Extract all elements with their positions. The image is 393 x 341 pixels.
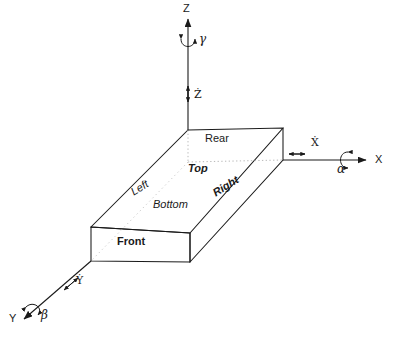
face-label-rear: Rear [205, 133, 229, 144]
face-label-front: Front [117, 236, 145, 247]
gamma-rotation-label: γ [199, 33, 206, 45]
x-dot-label: Ẋ [311, 137, 319, 148]
y-axis-line [24, 261, 91, 319]
beta-rotation-arc [26, 304, 40, 315]
block-right-face [190, 128, 283, 262]
z-axis-label: Z [183, 3, 190, 14]
alpha-rotation-label: α [337, 163, 345, 175]
face-label-bottom: Bottom [153, 199, 188, 210]
diagram-canvas: Z X Y γ α β Ż Ẋ Ẏ Rear Top Left Botto… [0, 0, 393, 341]
block-top-face [91, 128, 283, 233]
x-axis-label: X [375, 154, 382, 165]
y-axis-label: Y [9, 313, 16, 324]
beta-rotation-label: β [41, 309, 48, 321]
y-dot-label: Ẏ [76, 275, 83, 286]
z-dot-label: Ż [194, 89, 202, 100]
face-label-top: Top [188, 163, 208, 174]
